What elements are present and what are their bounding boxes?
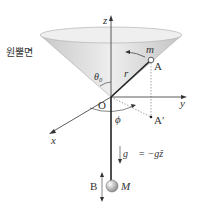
y-axis-label: y — [180, 98, 185, 109]
point-a-label: A — [154, 61, 162, 72]
origin-label: O — [98, 100, 106, 111]
phi-label: ϕ — [115, 114, 121, 125]
mass-m-label: m — [146, 44, 154, 55]
surface-label: 원뿔면 — [6, 48, 33, 58]
mass-M-label: M — [121, 181, 130, 192]
mass-m — [148, 57, 154, 63]
mass-M — [106, 180, 118, 192]
point-a-prime-label: A′ — [154, 115, 164, 126]
point-b-label: B — [90, 181, 97, 192]
radius-label: r — [124, 68, 128, 79]
theta-label: θ₀ — [94, 72, 102, 82]
x-axis-label: x — [51, 135, 56, 146]
z-axis-label: z — [103, 15, 107, 26]
gravity-label: g⃗ = −gẑ — [123, 149, 163, 159]
